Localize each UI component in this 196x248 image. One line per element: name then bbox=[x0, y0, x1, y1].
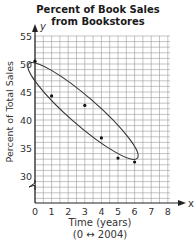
x-tick-label: 8 bbox=[165, 206, 171, 217]
x-axis-label: Time (years) bbox=[58, 217, 142, 229]
scatter-plot: xy012345678303540455055 bbox=[0, 0, 196, 248]
data-point bbox=[133, 160, 136, 163]
y-axis-arrow-icon bbox=[32, 24, 38, 32]
trend-ellipse bbox=[19, 53, 146, 169]
x-tick-label: 4 bbox=[98, 206, 104, 217]
data-point bbox=[33, 60, 36, 63]
x-tick-label: 6 bbox=[132, 206, 138, 217]
axis-break-icon bbox=[29, 180, 35, 190]
data-point bbox=[116, 156, 119, 159]
y-axis-letter: y bbox=[39, 21, 47, 32]
x-tick-label: 0 bbox=[32, 206, 38, 217]
x-tick-label: 7 bbox=[148, 206, 154, 217]
y-tick-label: 55 bbox=[20, 31, 32, 42]
data-point bbox=[50, 94, 53, 97]
y-tick-label: 50 bbox=[20, 59, 32, 70]
x-tick-label: 2 bbox=[65, 206, 71, 217]
data-point bbox=[83, 104, 86, 107]
x-tick-label: 3 bbox=[82, 206, 88, 217]
x-axis-arrow-icon bbox=[178, 200, 186, 206]
y-axis-label: Percent of Total Sales bbox=[4, 73, 15, 163]
x-axis-letter: x bbox=[188, 198, 194, 209]
x-tick-label: 5 bbox=[115, 206, 121, 217]
x-axis-label-block: Time (years) (0 ↔ 2004) bbox=[58, 217, 142, 241]
data-point bbox=[100, 136, 103, 139]
y-tick-label: 35 bbox=[20, 143, 32, 154]
y-tick-label: 45 bbox=[20, 87, 32, 98]
y-tick-label: 40 bbox=[20, 115, 32, 126]
x-tick-label: 1 bbox=[49, 206, 55, 217]
y-tick-label: 30 bbox=[20, 171, 32, 182]
x-axis-note: (0 ↔ 2004) bbox=[58, 229, 142, 241]
